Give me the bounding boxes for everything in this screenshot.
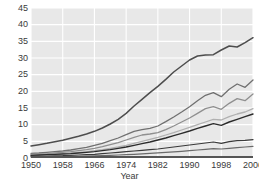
y-axis: 051015202530354045 bbox=[0, 0, 28, 187]
x-tick-label: 1974 bbox=[116, 160, 136, 170]
x-tick-label: 1982 bbox=[148, 160, 168, 170]
x-tick-label: 1990 bbox=[180, 160, 200, 170]
y-tick-label: 15 bbox=[2, 104, 28, 113]
y-tick-label: 5 bbox=[2, 137, 28, 146]
y-tick-label: 30 bbox=[2, 54, 28, 63]
y-tick-label: 25 bbox=[2, 70, 28, 79]
y-tick-label: 10 bbox=[2, 120, 28, 129]
series-line bbox=[31, 109, 253, 155]
x-axis-label: Year bbox=[0, 171, 259, 181]
x-tick-label: 1950 bbox=[21, 160, 41, 170]
x-tick-label: 1966 bbox=[84, 160, 104, 170]
plot-area bbox=[31, 8, 253, 158]
x-tick-label: 1958 bbox=[53, 160, 73, 170]
y-tick-label: 40 bbox=[2, 20, 28, 29]
x-axis-baseline bbox=[31, 156, 253, 158]
line-chart: 051015202530354045 195019581966197419821… bbox=[0, 0, 259, 187]
data-lines bbox=[31, 8, 253, 158]
y-tick-label: 45 bbox=[2, 4, 28, 13]
series-line bbox=[31, 94, 253, 154]
y-tick-label: 20 bbox=[2, 87, 28, 96]
x-tick-label: 2006 bbox=[243, 160, 259, 170]
x-tick-label: 1998 bbox=[211, 160, 231, 170]
series-line bbox=[31, 80, 253, 153]
y-tick-label: 35 bbox=[2, 37, 28, 46]
